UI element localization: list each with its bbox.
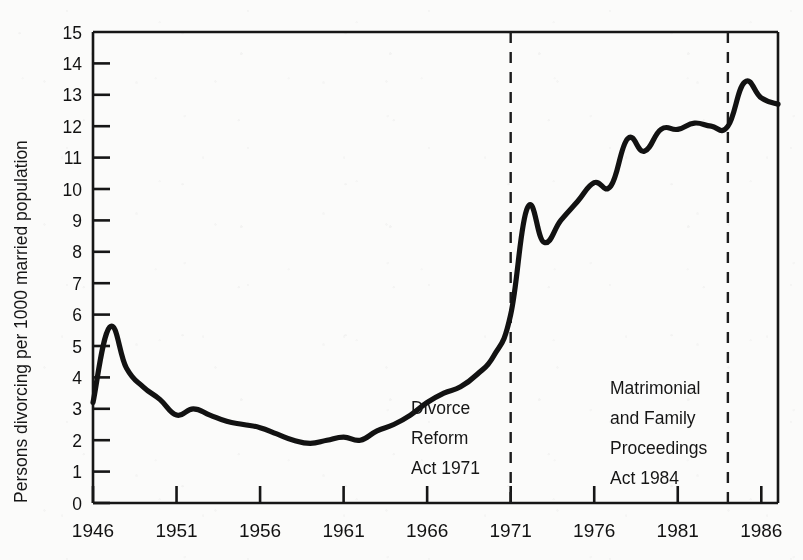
annotation-line: Act 1971	[411, 458, 480, 478]
x-axis-tick-label: 1951	[155, 520, 197, 541]
annotation-divorce-reform-act-1971: Divorce Reform Act 1971	[411, 398, 480, 478]
y-axis-tick-label: 15	[63, 23, 82, 43]
y-axis-tick-label: 10	[63, 180, 83, 200]
chart-page: Persons divorcing per 1000 married popul…	[0, 0, 803, 560]
x-axis-tick-label: 1946	[72, 520, 114, 541]
y-axis-ticks	[93, 63, 110, 503]
y-axis-tick-label: 4	[72, 368, 82, 388]
y-axis-tick-label: 14	[63, 54, 83, 74]
x-axis-tick-label: 1966	[406, 520, 448, 541]
x-axis-tick-label: 1956	[239, 520, 281, 541]
annotation-markers	[511, 32, 728, 503]
x-axis-tick-label: 1986	[740, 520, 782, 541]
y-axis-tick-label: 0	[72, 494, 82, 514]
divorce-rate-line-chart: Persons divorcing per 1000 married popul…	[0, 0, 803, 560]
x-axis-tick-label: 1976	[573, 520, 615, 541]
y-axis-tick-label: 9	[72, 211, 82, 231]
x-axis-tick-label: 1961	[322, 520, 364, 541]
x-axis-tick-labels: 194619511956196119661971197619811986	[72, 520, 783, 541]
x-axis-tick-label: 1971	[490, 520, 532, 541]
y-axis-tick-label: 5	[72, 337, 82, 357]
annotation-matrimonial-and-family-proceedings-act-1984: Matrimonial and Family Proceedings Act 1…	[610, 378, 708, 488]
y-axis-label: Persons divorcing per 1000 married popul…	[11, 140, 31, 503]
x-axis-tick-label: 1981	[657, 520, 699, 541]
annotation-line: Proceedings	[610, 438, 708, 458]
y-axis-tick-label: 11	[64, 148, 82, 168]
y-axis-tick-label: 1	[72, 462, 82, 482]
y-axis-tick-label: 2	[72, 431, 82, 451]
y-axis-tick-label: 12	[63, 117, 82, 137]
annotation-line: Divorce	[411, 398, 470, 418]
y-axis-tick-label: 7	[72, 274, 82, 294]
annotation-line: Act 1984	[610, 468, 679, 488]
annotation-line: Matrimonial	[610, 378, 700, 398]
annotation-line: and Family	[610, 408, 696, 428]
y-axis-tick-labels: 0123456789101112131415	[63, 23, 83, 514]
annotation-line: Reform	[411, 428, 468, 448]
y-axis-tick-label: 3	[72, 399, 82, 419]
y-axis-tick-label: 6	[72, 305, 82, 325]
y-axis-tick-label: 8	[72, 242, 82, 262]
x-axis-ticks	[93, 486, 761, 503]
y-axis-tick-label: 13	[63, 85, 82, 105]
